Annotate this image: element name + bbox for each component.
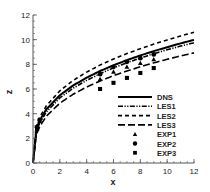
legend-item-exp2: EXP2: [133, 140, 176, 149]
legend-item-exp3: EXP3: [133, 149, 176, 158]
series-exp2: [35, 52, 157, 130]
y-tick-label: 2: [26, 134, 31, 143]
x-tick-label: 2: [58, 167, 63, 176]
y-tick-label: 10: [21, 36, 30, 45]
legend-label: EXP3: [157, 149, 176, 158]
legend-label: EXP2: [157, 140, 176, 149]
y-tick-label: 8: [26, 60, 31, 69]
x-axis: 024681012: [31, 159, 199, 176]
legend-label: DNS: [157, 93, 173, 102]
x-tick-label: 10: [163, 167, 172, 176]
legend: DNSLES1LES2LES3EXP1EXP2EXP3: [118, 93, 176, 158]
legend-item-exp1: EXP1: [133, 130, 176, 139]
y-tick-label: 12: [21, 11, 30, 20]
legend-item-les1: LES1: [118, 102, 176, 111]
x-tick-label: 12: [190, 167, 199, 176]
chart: 024681012 024681012 x z DNSLES1LES2LES3E…: [0, 0, 210, 192]
legend-item-les3: LES3: [118, 121, 176, 130]
x-axis-label: x: [110, 177, 115, 187]
legend-label: LES1: [157, 102, 176, 111]
legend-label: LES2: [157, 112, 176, 121]
y-axis: 024681012: [21, 11, 37, 168]
legend-label: LES3: [157, 121, 176, 130]
y-tick-label: 4: [26, 110, 31, 119]
legend-item-les2: LES2: [118, 112, 176, 121]
x-tick-label: 0: [31, 167, 36, 176]
x-tick-label: 4: [84, 167, 89, 176]
y-tick-label: 6: [26, 85, 31, 94]
legend-item-dns: DNS: [118, 93, 173, 102]
y-tick-label: 0: [26, 159, 31, 168]
y-axis-label: z: [4, 89, 14, 94]
x-tick-label: 8: [138, 167, 143, 176]
x-tick-label: 6: [111, 167, 116, 176]
legend-label: EXP1: [157, 130, 176, 139]
